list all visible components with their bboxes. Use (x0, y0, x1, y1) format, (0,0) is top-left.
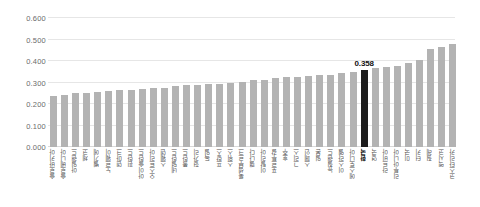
category-text: 벨기에 (92, 149, 99, 167)
bar (50, 96, 57, 147)
bar-slot (248, 18, 259, 147)
bar-slot (403, 18, 414, 147)
bar (394, 66, 401, 147)
plot-area: 0.358 (48, 18, 455, 147)
x-axis-category-label: 슬로바키아 (48, 149, 59, 205)
bar (139, 89, 146, 147)
category-text: 노르웨이 (104, 149, 111, 173)
bar (216, 84, 223, 147)
bar-slot (92, 18, 103, 147)
bar (405, 63, 412, 147)
category-text: 캘나다 (248, 149, 255, 167)
bar (383, 67, 390, 147)
category-text: 폴란드 (181, 149, 188, 167)
bar-highlighted (361, 70, 368, 147)
bar (350, 72, 357, 147)
x-axis-category-label: 멕시코 (437, 149, 448, 205)
bar-slot (270, 18, 281, 147)
category-text: 멕시코 (437, 149, 444, 167)
bar (239, 82, 246, 147)
x-axis-category-label: 포르투갈 (270, 149, 281, 205)
x-axis-category-label: 스웨덴 (159, 149, 170, 205)
category-text: 헝가리 (192, 149, 199, 167)
category-text: 터키 (414, 149, 421, 161)
bar-slot (370, 18, 381, 147)
bar (327, 75, 334, 147)
bar (372, 68, 379, 147)
bar (294, 77, 301, 147)
bar-slot (237, 18, 248, 147)
category-text: 포르투갈 (270, 149, 277, 173)
bar (416, 60, 423, 147)
x-axis-category-label: 스위스 (226, 149, 237, 205)
x-axis-category-label: 터키 (414, 149, 425, 205)
bar-slot (292, 18, 303, 147)
x-axis-category-label: 이탈리아 (259, 149, 270, 205)
x-axis-category-label: 프랑스 (215, 149, 226, 205)
y-axis-tick-label: 0.100 (6, 122, 46, 131)
bar (116, 90, 123, 147)
category-text: 영국 (370, 149, 377, 161)
x-axis-category-label: 칠레 (425, 149, 436, 205)
bar-slot (326, 18, 337, 147)
bar (172, 86, 179, 147)
category-text: 미국 (403, 149, 410, 161)
category-text: 일본 (314, 149, 321, 161)
x-axis-category-label: 뉴질랜드 (326, 149, 337, 205)
y-axis-tick-label: 0.200 (6, 100, 46, 109)
bar-slot (348, 18, 359, 147)
bar-slot (170, 18, 181, 147)
bar-slot (215, 18, 226, 147)
category-text: 한국 (359, 149, 366, 161)
category-text: 이탈리아 (259, 149, 266, 173)
bar-slot (104, 18, 115, 147)
x-axis-category-label: 헝가리 (192, 149, 203, 205)
bar (150, 88, 157, 147)
bar (161, 88, 168, 147)
bar (194, 85, 201, 147)
category-text: 룩셈부르크 (237, 149, 244, 179)
x-axis-category-label: 코스타리카 (448, 149, 459, 205)
bar-slot (392, 18, 403, 147)
bar-slot (137, 18, 148, 147)
category-text: 스페인 (303, 149, 310, 167)
x-axis-category-label: 에스토니아 (348, 149, 359, 205)
category-text: 독일 (203, 149, 210, 161)
category-text: 뉴질랜드 (326, 149, 333, 173)
category-text: 그리스 (292, 149, 299, 167)
bar-series: 0.358 (48, 18, 455, 147)
bar (105, 91, 112, 147)
x-axis-category-label: 폴란드 (181, 149, 192, 205)
bar (261, 80, 268, 147)
x-axis-category-label: 일본 (314, 149, 325, 205)
x-axis-category-label: 미국 (403, 149, 414, 205)
bar (305, 76, 312, 147)
bar-slot (226, 18, 237, 147)
bar-slot (359, 18, 370, 147)
bar (316, 75, 323, 147)
bar-slot (448, 18, 459, 147)
category-text: 아이슬란드 (137, 149, 144, 179)
x-axis-category-label: 체코 (81, 149, 92, 205)
category-text: 칠레 (425, 149, 432, 161)
bar-slot (81, 18, 92, 147)
bar-slot (70, 18, 81, 147)
y-axis-tick-label: 0.400 (6, 57, 46, 66)
x-axis-category-label: 스페인 (303, 149, 314, 205)
category-text: 코스타리카 (448, 149, 455, 179)
x-axis-category-label: 그리스 (292, 149, 303, 205)
bar-slot (425, 18, 436, 147)
category-text: 덴마크 (115, 149, 122, 167)
x-axis-category-label: 독일 (203, 149, 214, 205)
category-text: 핀란드 (126, 149, 133, 167)
category-text: 체코 (81, 149, 88, 161)
category-text: 라트비아 (381, 149, 388, 173)
bar-slot (48, 18, 59, 147)
x-axis-category-label: 이스라엘 (337, 149, 348, 205)
bar-slot (414, 18, 425, 147)
x-axis-category-label: 아이슬란드 (137, 149, 148, 205)
category-text: 리투아니아 (392, 149, 399, 179)
x-axis-category-label: 호주 (281, 149, 292, 205)
bar-slot (303, 18, 314, 147)
category-text: 스위스 (226, 149, 233, 167)
